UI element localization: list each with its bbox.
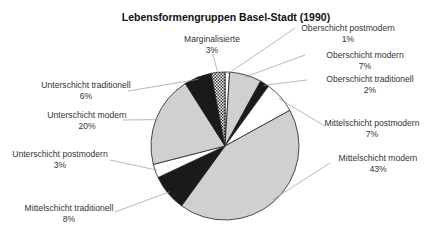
leader-line [245,55,305,77]
slice-value: 7% [359,61,372,71]
slice-label: Unterschicht postmodern [12,149,108,159]
slice-label: Oberschicht traditionell [326,74,414,84]
slice-label: Marginalisierte [184,34,240,44]
slice-label: Oberschicht modern [326,50,404,60]
leader-line [263,80,307,85]
slice-value: 3% [54,160,67,170]
slice-label: Mittelschicht modern [339,153,418,163]
slice-value: 43% [369,164,387,174]
slice-label: Oberschicht postmodern [301,23,395,33]
leader-line [110,160,157,170]
slice-value: 8% [63,214,76,224]
slice-label: Mittelschicht traditionell [25,203,114,213]
leader-line [115,192,170,212]
slice-value: 2% [364,85,377,95]
pie-slices [151,72,299,220]
slice-value: 1% [342,34,355,44]
pie-chart: Lebensformengruppen Basel-Stadt (1990) O… [0,0,436,233]
slice-value: 3% [206,45,219,55]
slice-value: 20% [78,121,96,131]
chart-title: Lebensformengruppen Basel-Stadt (1990) [122,11,330,23]
slice-label: Mittelschicht postmodern [324,118,419,128]
slice-value: 6% [80,91,93,101]
slice-value: 7% [366,129,379,139]
slice-label: Unterschicht modern [47,110,127,120]
slice-label: Unterschicht traditionell [41,80,130,90]
